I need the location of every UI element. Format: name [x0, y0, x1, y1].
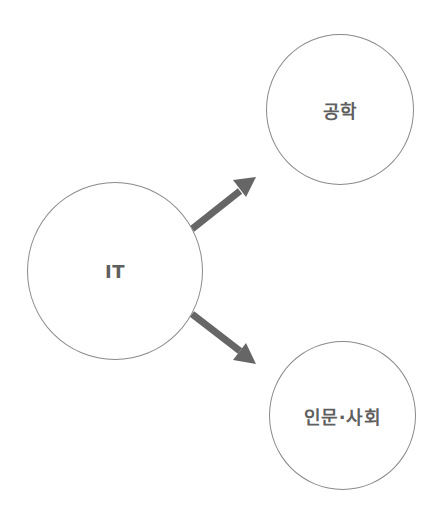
arrow-it-to-engineering — [192, 177, 256, 229]
node-humanities: 인문·사회 — [269, 341, 416, 490]
branch-diagram: IT 공학 인문·사회 — [0, 0, 440, 509]
node-it: IT — [27, 182, 203, 360]
node-engineering-label: 공학 — [323, 97, 358, 123]
node-engineering: 공학 — [266, 34, 414, 185]
node-humanities-label: 인문·사회 — [304, 403, 381, 429]
node-it-label: IT — [105, 261, 125, 282]
arrow-it-to-humanities — [192, 314, 256, 364]
